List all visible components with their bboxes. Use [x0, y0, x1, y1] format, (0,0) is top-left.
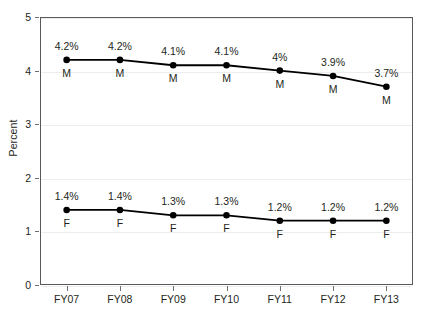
data-point-m-fy12	[330, 73, 337, 80]
data-point-f-fy08	[117, 207, 124, 214]
series-letter-m-fy08: M	[108, 68, 132, 79]
y-tick-label: 2	[17, 173, 31, 184]
x-tick-label-fy11: FY11	[250, 293, 310, 305]
value-label-f-fy12: 1.2%	[311, 202, 355, 213]
data-point-m-fy13	[383, 83, 390, 90]
series-letter-f-fy12: F	[321, 229, 345, 240]
series-letter-m-fy11: M	[268, 79, 292, 90]
value-label-f-fy09: 1.3%	[151, 196, 195, 207]
x-tick-label-fy12: FY12	[303, 293, 363, 305]
series-letter-m-fy07: M	[55, 68, 79, 79]
data-point-m-fy10	[223, 62, 230, 69]
data-point-m-fy11	[276, 67, 283, 74]
data-point-f-fy12	[330, 217, 337, 224]
x-tick-label-fy10: FY10	[197, 293, 257, 305]
value-label-m-fy11: 4%	[258, 52, 302, 63]
value-label-m-fy10: 4.1%	[205, 46, 249, 57]
y-tick-label: 5	[17, 12, 31, 23]
y-tick-mark	[35, 285, 39, 286]
x-tick-mark	[333, 286, 334, 291]
series-layer	[40, 17, 413, 285]
series-letter-m-fy10: M	[215, 73, 239, 84]
y-tick-mark	[35, 124, 39, 125]
value-label-f-fy08: 1.4%	[98, 191, 142, 202]
y-tick-mark	[35, 17, 39, 18]
value-label-f-fy07: 1.4%	[45, 191, 89, 202]
data-point-f-fy10	[223, 212, 230, 219]
line-chart: Percent 012345 FY07FY08FY09FY10FY11FY12F…	[0, 0, 427, 319]
data-point-m-fy07	[63, 57, 70, 64]
y-tick-mark	[35, 71, 39, 72]
x-tick-mark	[280, 286, 281, 291]
y-tick-label: 3	[17, 119, 31, 130]
series-letter-f-fy13: F	[374, 229, 398, 240]
data-point-f-fy09	[170, 212, 177, 219]
value-label-f-fy13: 1.2%	[364, 202, 408, 213]
value-label-f-fy10: 1.3%	[205, 196, 249, 207]
y-tick-label: 4	[17, 66, 31, 77]
value-label-m-fy13: 3.7%	[364, 68, 408, 79]
y-tick-label: 1	[17, 226, 31, 237]
series-letter-m-fy13: M	[374, 95, 398, 106]
series-letter-f-fy07: F	[55, 218, 79, 229]
value-label-f-fy11: 1.2%	[258, 202, 302, 213]
y-tick-mark	[35, 231, 39, 232]
y-tick-label: 0	[17, 280, 31, 291]
data-point-f-fy07	[63, 207, 70, 214]
data-point-f-fy11	[276, 217, 283, 224]
value-label-m-fy07: 4.2%	[45, 41, 89, 52]
value-label-m-fy09: 4.1%	[151, 46, 195, 57]
value-label-m-fy08: 4.2%	[98, 41, 142, 52]
series-letter-m-fy12: M	[321, 84, 345, 95]
series-letter-m-fy09: M	[161, 73, 185, 84]
data-point-f-fy13	[383, 217, 390, 224]
data-point-m-fy08	[117, 57, 124, 64]
y-axis-title: Percent	[7, 108, 19, 168]
series-letter-f-fy08: F	[108, 218, 132, 229]
series-letter-f-fy11: F	[268, 229, 292, 240]
x-tick-mark	[386, 286, 387, 291]
series-letter-f-fy10: F	[215, 223, 239, 234]
x-tick-mark	[67, 286, 68, 291]
x-tick-label-fy09: FY09	[143, 293, 203, 305]
x-tick-label-fy07: FY07	[37, 293, 97, 305]
x-tick-mark	[227, 286, 228, 291]
x-tick-mark	[173, 286, 174, 291]
value-label-m-fy12: 3.9%	[311, 57, 355, 68]
series-letter-f-fy09: F	[161, 223, 185, 234]
x-tick-label-fy13: FY13	[356, 293, 416, 305]
y-tick-mark	[35, 178, 39, 179]
data-point-m-fy09	[170, 62, 177, 69]
x-tick-mark	[120, 286, 121, 291]
x-tick-label-fy08: FY08	[90, 293, 150, 305]
